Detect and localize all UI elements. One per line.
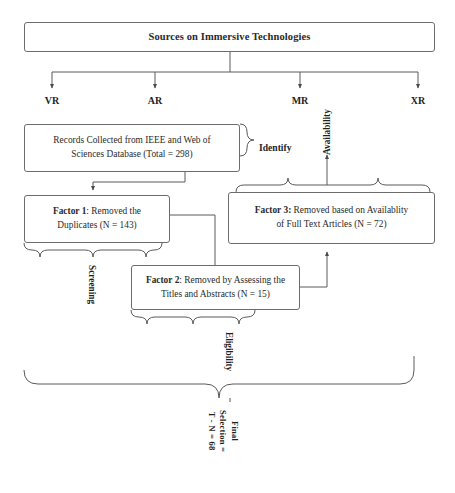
node-factor-3-line1: Removed based on Availablity xyxy=(291,205,408,215)
final-selection-line3: T - N = 68 xyxy=(207,412,217,451)
wire-records-to-factor1 xyxy=(93,172,185,190)
final-selection-line1: Final xyxy=(230,421,240,441)
node-factor-2-bold: Factor 2 xyxy=(146,275,179,285)
stage-label-identify: Identify xyxy=(259,142,292,153)
node-records-collected[interactable]: Records Collected from IEEE and Web of S… xyxy=(24,124,240,172)
node-factor-3-line2: of Full Text Articles (N = 72) xyxy=(276,219,386,229)
wire-factor1-to-factor2 xyxy=(170,215,215,269)
branch-label-xr: XR xyxy=(398,95,438,106)
node-factor-2-line2: Titles and Abstracts (N = 15) xyxy=(161,289,270,299)
stage-label-screening: Screening xyxy=(87,265,97,304)
node-factor-2-line1: : Removed by Assessing the xyxy=(179,275,285,285)
brace-screening-top xyxy=(24,243,162,257)
branch-label-mr-text: MR xyxy=(292,95,309,106)
node-factor-2[interactable]: Factor 2: Removed by Assessing the Title… xyxy=(131,265,300,310)
node-factor-3-bold: Factor 3: xyxy=(255,205,292,215)
stage-label-eligibility: Eligibility xyxy=(224,332,234,371)
stage-label-identify-text: Identify xyxy=(259,142,292,153)
node-factor-1[interactable]: Factor 1: Removed the Duplicates (N = 14… xyxy=(24,195,170,243)
node-records-line2: Sciences Database (Total = 298) xyxy=(71,149,192,159)
stage-label-availability: Availability xyxy=(322,109,332,155)
brace-final-selection xyxy=(24,356,414,398)
branch-label-xr-text: XR xyxy=(411,95,425,106)
node-sources-title-label: Sources on Immersive Technologies xyxy=(148,29,310,44)
branch-label-vr: VR xyxy=(32,95,72,106)
stage-label-eligibility-text: Eligibility xyxy=(224,332,234,371)
brace-eligibility-top xyxy=(131,310,255,324)
final-selection-line2: Selection = xyxy=(218,410,228,452)
node-records-line1: Records Collected from IEEE and Web of xyxy=(53,135,210,145)
brace-availability-bottom xyxy=(236,178,430,192)
branch-label-ar: AR xyxy=(135,95,175,106)
node-factor-1-bold: Factor 1 xyxy=(53,206,86,216)
stage-label-screening-text: Screening xyxy=(87,265,97,304)
wire-factor2-to-factor3 xyxy=(300,252,327,287)
node-factor-1-line1: : Removed the xyxy=(86,206,141,216)
flowchart-canvas: Sources on Immersive Technologies VR AR … xyxy=(0,0,455,493)
stage-label-availability-text: Availability xyxy=(322,109,332,155)
branch-label-mr: MR xyxy=(280,95,320,106)
node-factor-3[interactable]: Factor 3: Removed based on Availablity o… xyxy=(228,192,435,244)
final-selection-label: Final Selection = T - N = 68 xyxy=(205,410,240,452)
node-sources-title[interactable]: Sources on Immersive Technologies xyxy=(24,22,435,52)
branch-label-vr-text: VR xyxy=(45,95,59,106)
node-factor-1-line2: Duplicates (N = 143) xyxy=(57,220,137,230)
brace-identify xyxy=(240,124,254,156)
branch-label-ar-text: AR xyxy=(148,95,162,106)
